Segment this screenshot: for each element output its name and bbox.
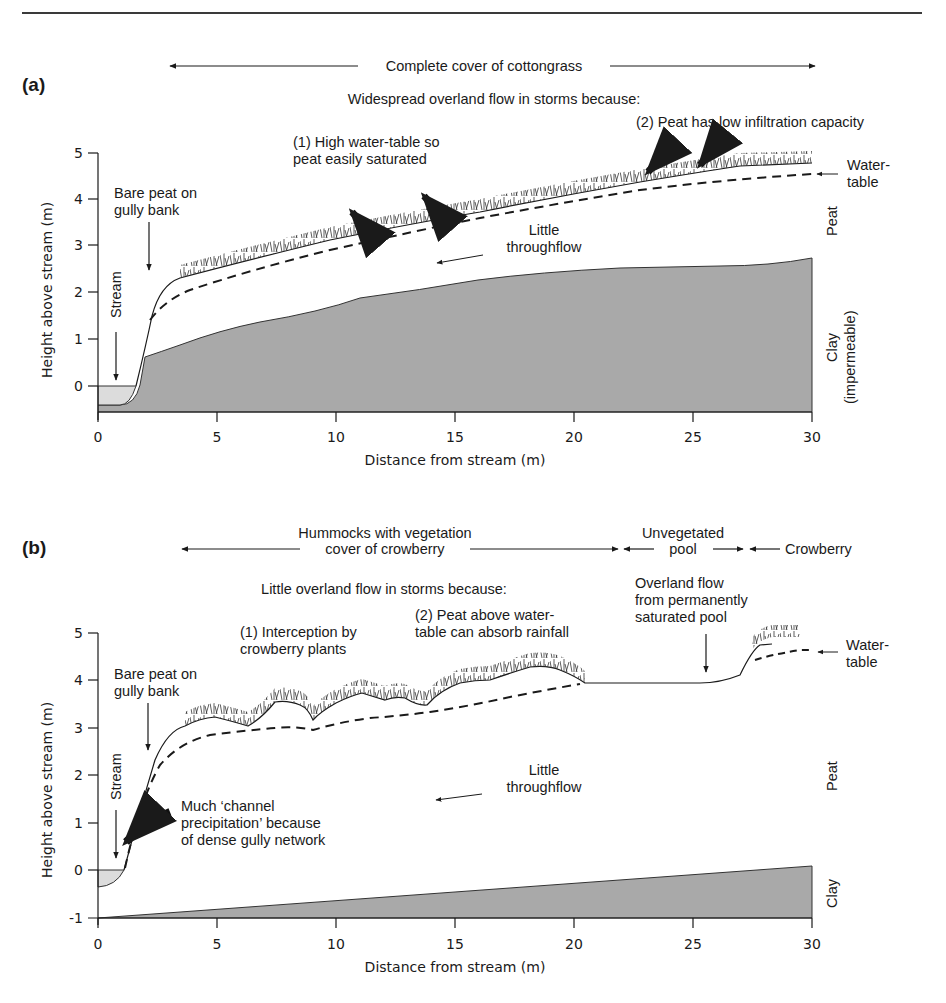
svg-text:10: 10 xyxy=(327,429,345,445)
b-bare-peat-line1: Bare peat on xyxy=(114,666,197,682)
b-subtitle: Little overland flow in storms because: xyxy=(261,581,507,597)
a-reason2: (2) Peat has low infiltration capacity xyxy=(636,114,865,130)
b-x-axis-title: Distance from stream (m) xyxy=(365,959,546,975)
a-throughflow-line2: throughflow xyxy=(507,239,582,255)
svg-text:0: 0 xyxy=(94,936,103,952)
svg-text:0: 0 xyxy=(94,429,103,445)
svg-text:25: 25 xyxy=(684,936,702,952)
a-clay-label2: (impermeable) xyxy=(842,311,858,404)
b-peat-label: Peat xyxy=(824,761,840,791)
b-x-axis xyxy=(98,918,812,928)
a-reason1-line2: peat easily saturated xyxy=(293,151,427,167)
b-clay-label: Clay xyxy=(824,878,840,908)
a-stream-label: Stream xyxy=(108,271,124,318)
figure-caption-clipped xyxy=(22,990,922,1003)
a-bare-peat-line2: gully bank xyxy=(114,202,180,218)
cottongrass-extent-arrow: Complete cover of cottongrass xyxy=(170,58,815,74)
svg-text:30: 30 xyxy=(803,936,821,952)
a-watertable-line2: table xyxy=(847,174,878,190)
a-throughflow-line1: Little xyxy=(529,222,560,238)
b-reason1-line2: crowberry plants xyxy=(240,641,346,657)
svg-text:3: 3 xyxy=(74,237,83,253)
a-reason1-line1: (1) High water-table so xyxy=(293,134,440,150)
b-bare-peat-line2: gully bank xyxy=(114,683,180,699)
b-crowberry-vegetation xyxy=(185,652,585,726)
a-x-axis-title: Distance from stream (m) xyxy=(365,452,546,468)
b-clay-layer xyxy=(98,866,812,918)
b-throughflow-line1: Little xyxy=(529,762,560,778)
svg-text:2: 2 xyxy=(74,284,83,300)
b-stream-water xyxy=(98,870,124,887)
svg-text:1: 1 xyxy=(74,815,83,831)
svg-text:2: 2 xyxy=(74,767,83,783)
svg-text:20: 20 xyxy=(565,429,583,445)
b-throughflow-arrow xyxy=(436,794,482,800)
panel-b-label: (b) xyxy=(22,537,46,558)
svg-text:5: 5 xyxy=(213,429,222,445)
a-x-ticks: 0 5 10 15 20 25 30 xyxy=(94,429,821,445)
b-channel-line2: precipitation’ because xyxy=(181,815,321,831)
svg-text:1: 1 xyxy=(74,331,83,347)
a-x-axis xyxy=(98,412,812,422)
a-throughflow-arrow xyxy=(437,255,483,263)
svg-text:0: 0 xyxy=(74,378,83,394)
svg-text:3: 3 xyxy=(74,720,83,736)
a-clay-label1: Clay xyxy=(824,332,840,362)
a-y-axis xyxy=(88,153,98,420)
b-reason2-line1: (2) Peat above water- xyxy=(415,607,555,623)
cottongrass-label: Complete cover of cottongrass xyxy=(386,58,583,74)
a-subtitle: Widespread overland flow in storms becau… xyxy=(348,91,641,107)
b-overland-line3: saturated pool xyxy=(635,609,727,625)
b-channel-precip-arrow xyxy=(126,812,170,842)
b-zone2-line2: pool xyxy=(669,541,696,557)
b-y-ticks: 5 4 3 2 1 0 -1 xyxy=(69,625,83,926)
b-reason2-line2: table can absorb rainfall xyxy=(415,624,569,640)
panel-a: (a) Complete cover of cottongrass Widesp… xyxy=(22,58,890,468)
a-y-ticks: 5 4 3 2 1 0 xyxy=(74,145,83,394)
a-clay-layer xyxy=(98,258,812,412)
b-zone1-line1: Hummocks with vegetation xyxy=(298,525,471,541)
b-water-table-right xyxy=(755,650,812,660)
b-reason1-line1: (1) Interception by xyxy=(240,624,358,640)
b-overland-line2: from permanently xyxy=(635,592,749,608)
svg-text:25: 25 xyxy=(684,429,702,445)
svg-text:4: 4 xyxy=(74,672,83,688)
b-throughflow-line2: throughflow xyxy=(507,779,582,795)
svg-text:15: 15 xyxy=(446,936,464,952)
hydrology-figure: (a) Complete cover of cottongrass Widesp… xyxy=(0,0,946,1003)
b-stream-label: Stream xyxy=(108,753,124,800)
a-y-axis-title: Height above stream (m) xyxy=(39,202,55,378)
panel-a-label: (a) xyxy=(22,74,45,95)
b-watertable-line1: Water- xyxy=(846,637,889,653)
b-zone2-line1: Unvegetated xyxy=(642,525,724,541)
b-zone3-label: Crowberry xyxy=(785,541,853,557)
svg-text:15: 15 xyxy=(446,429,464,445)
svg-text:20: 20 xyxy=(565,936,583,952)
svg-text:5: 5 xyxy=(74,625,83,641)
svg-text:5: 5 xyxy=(213,936,222,952)
svg-text:0: 0 xyxy=(74,862,83,878)
b-channel-line1: Much ‘channel xyxy=(181,798,275,814)
b-x-ticks: 0 5 10 15 20 25 30 xyxy=(94,936,821,952)
panel-b: (b) Hummocks with vegetation cover of cr… xyxy=(22,525,889,975)
a-bare-peat-line1: Bare peat on xyxy=(114,185,197,201)
svg-text:10: 10 xyxy=(327,936,345,952)
b-overland-line1: Overland flow xyxy=(635,575,724,591)
b-zone1-line2: cover of crowberry xyxy=(325,541,445,557)
svg-text:5: 5 xyxy=(74,145,83,161)
a-peat-label: Peat xyxy=(824,206,840,236)
svg-text:30: 30 xyxy=(803,429,821,445)
svg-text:4: 4 xyxy=(74,191,83,207)
b-y-axis-title: Height above stream (m) xyxy=(39,702,55,878)
svg-text:-1: -1 xyxy=(69,910,83,926)
b-watertable-line2: table xyxy=(846,654,877,670)
b-channel-line3: of dense gully network xyxy=(181,832,326,848)
a-watertable-line1: Water- xyxy=(847,157,890,173)
